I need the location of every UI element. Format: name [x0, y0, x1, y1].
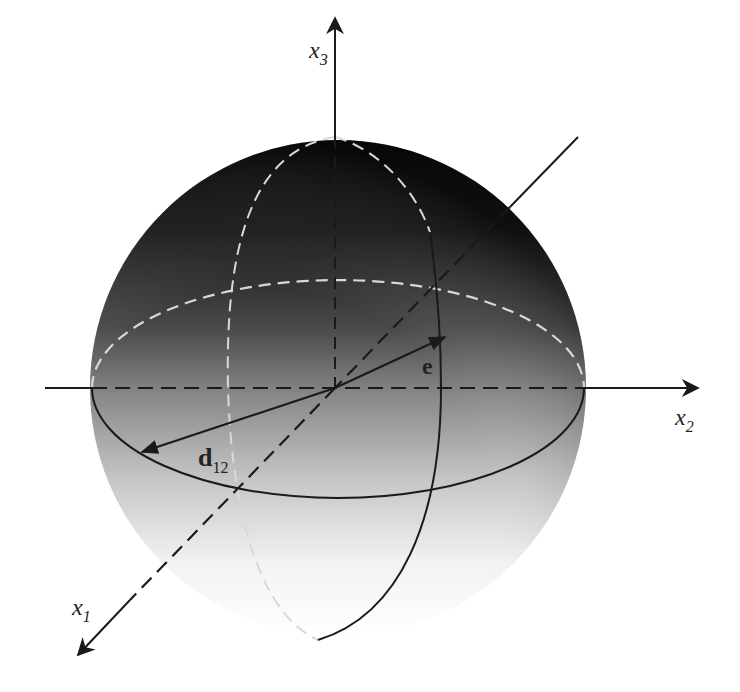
sphere-diagram: x3 x2 x1 e d12: [0, 0, 740, 692]
vector-e-label: e: [422, 353, 433, 379]
x1-axis-back-outside: [510, 137, 578, 207]
x3-label: x3: [308, 37, 328, 68]
x2-label: x2: [674, 404, 694, 435]
x1-label: x1: [71, 594, 91, 625]
